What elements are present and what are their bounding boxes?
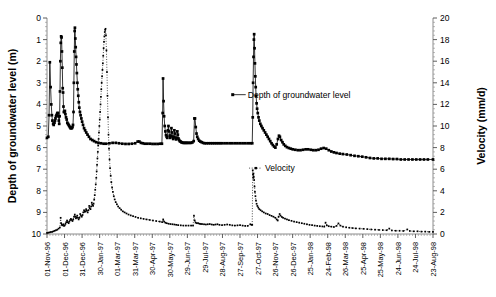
series-marker — [64, 113, 67, 116]
x-axis-tick-label: 31-Mar-97 — [131, 242, 140, 276]
series-marker — [253, 179, 255, 181]
series-marker — [97, 158, 99, 160]
series-marker — [81, 120, 84, 123]
y-axis-tick-label: 10 — [32, 229, 42, 239]
series-marker — [100, 96, 102, 98]
series-marker — [168, 223, 170, 225]
series-marker — [166, 222, 168, 224]
series-marker — [239, 224, 241, 226]
series-marker — [76, 81, 79, 84]
series-marker — [428, 231, 430, 233]
x-axis-tick-label: 26-Mar-98 — [341, 242, 350, 276]
series-marker — [77, 217, 79, 219]
series-marker — [100, 104, 102, 106]
series-marker — [252, 56, 255, 59]
series-marker — [47, 135, 50, 138]
series-marker — [234, 142, 237, 145]
series-marker — [118, 142, 121, 145]
series-marker — [257, 205, 259, 207]
series-marker — [48, 61, 51, 64]
series-marker — [301, 222, 303, 224]
series-marker — [79, 111, 82, 114]
series-marker — [59, 60, 62, 63]
groundwater-velocity-chart: 0123456789100246810121416182001-Nov-9601… — [0, 0, 496, 297]
x-axis-tick-label: 23-Aug-98 — [429, 242, 438, 277]
x-axis-tick-label: 26-Dec-97 — [289, 242, 298, 277]
series-marker — [255, 102, 258, 105]
series-marker — [309, 224, 311, 226]
series-marker — [97, 151, 99, 153]
series-marker — [254, 191, 256, 193]
series-marker — [396, 158, 399, 161]
series-marker — [156, 143, 159, 146]
series-marker — [62, 223, 64, 225]
series-marker — [288, 219, 290, 221]
series-marker — [298, 222, 300, 224]
series-marker — [427, 158, 430, 161]
series-marker — [96, 164, 98, 166]
series-marker — [174, 132, 177, 135]
series-marker — [168, 130, 171, 133]
series-marker — [151, 143, 154, 146]
x-axis-tick-label: 28-Aug-97 — [218, 242, 227, 277]
series-marker — [69, 221, 71, 223]
series-marker — [59, 90, 62, 93]
series-marker — [137, 217, 139, 219]
series-marker — [116, 203, 118, 205]
series-marker — [108, 134, 110, 136]
series-marker — [432, 231, 434, 233]
series-marker — [82, 124, 85, 127]
series-marker — [378, 229, 380, 231]
series-marker — [58, 122, 61, 125]
series-marker — [372, 157, 375, 160]
y-axis-tick-label: 0 — [36, 13, 41, 23]
series-marker — [325, 222, 327, 224]
series-marker — [201, 223, 203, 225]
series-marker — [73, 50, 76, 53]
series-marker — [154, 143, 157, 146]
series-marker — [88, 205, 90, 207]
series-marker — [93, 203, 95, 205]
series-marker — [108, 148, 110, 150]
series-marker — [386, 229, 388, 231]
series-marker — [107, 95, 109, 97]
series-marker — [432, 158, 435, 161]
y-axis-tick-label: 1 — [36, 35, 41, 45]
series-marker — [171, 131, 174, 134]
series-marker — [81, 216, 83, 218]
series-marker — [79, 217, 81, 219]
series-marker — [60, 36, 63, 39]
series-marker — [149, 219, 151, 221]
series-marker — [319, 225, 321, 227]
series-marker — [105, 28, 107, 30]
series-marker — [115, 201, 117, 203]
series-marker — [236, 142, 239, 145]
series-marker — [95, 177, 97, 179]
series-marker — [417, 230, 419, 232]
series-marker — [60, 217, 62, 219]
series-marker — [294, 148, 297, 151]
y2-axis-tick-label: 4 — [440, 186, 445, 196]
series-marker — [322, 147, 325, 150]
series-marker — [376, 157, 379, 160]
series-marker — [102, 63, 104, 65]
series-marker — [355, 228, 357, 230]
series-marker — [60, 222, 62, 224]
series-marker — [253, 173, 255, 175]
series-marker — [57, 112, 60, 115]
y2-axis-tick-label: 16 — [440, 56, 450, 66]
series-marker — [155, 220, 157, 222]
series-marker — [254, 75, 257, 78]
series-marker — [74, 46, 77, 49]
series-marker — [421, 231, 423, 233]
series-marker — [254, 86, 257, 89]
series-marker — [57, 119, 60, 122]
series-marker — [88, 209, 90, 211]
series-marker — [76, 215, 78, 217]
series-marker — [101, 75, 103, 77]
series-marker — [98, 138, 100, 140]
series-marker — [330, 150, 333, 153]
series-marker — [409, 230, 411, 232]
series-marker — [403, 230, 405, 232]
series-marker — [215, 224, 217, 226]
